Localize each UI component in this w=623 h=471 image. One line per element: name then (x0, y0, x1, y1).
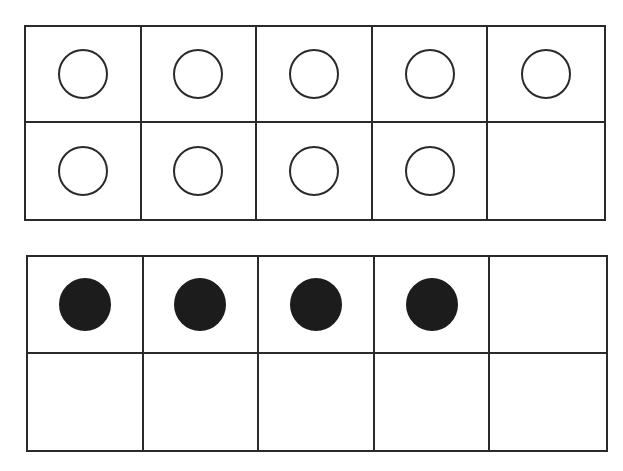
ten-frame-bottom (26, 255, 608, 452)
empty-counter-icon (521, 49, 571, 99)
ten-frame-top (24, 25, 606, 221)
empty-counter-icon (173, 146, 223, 196)
frame-cell (142, 27, 258, 123)
empty-counter-icon (289, 146, 339, 196)
filled-counter-icon (174, 278, 226, 331)
frame-cell (257, 27, 373, 123)
empty-counter-icon (58, 146, 108, 196)
frame-cell (373, 123, 489, 219)
filled-counter-icon (290, 278, 342, 331)
frame-cell (488, 27, 604, 123)
frame-cell (490, 257, 606, 354)
empty-counter-icon (289, 49, 339, 99)
frame-cell (488, 123, 604, 219)
empty-counter-icon (405, 146, 455, 196)
filled-counter-icon (59, 278, 111, 331)
empty-counter-icon (405, 49, 455, 99)
frame-cell (26, 123, 142, 219)
frame-cell (373, 27, 489, 123)
filled-counter-icon (406, 278, 458, 331)
empty-counter-icon (58, 49, 108, 99)
frame-cell (490, 354, 606, 451)
frame-cell (28, 354, 144, 451)
frame-cell (144, 354, 260, 451)
frame-cell (257, 123, 373, 219)
frame-cell (28, 257, 144, 354)
frame-cell (26, 27, 142, 123)
frame-cell (259, 354, 375, 451)
empty-counter-icon (173, 49, 223, 99)
frame-cell (144, 257, 260, 354)
frame-cell (142, 123, 258, 219)
frame-cell (375, 257, 491, 354)
frame-cell (375, 354, 491, 451)
frame-cell (259, 257, 375, 354)
